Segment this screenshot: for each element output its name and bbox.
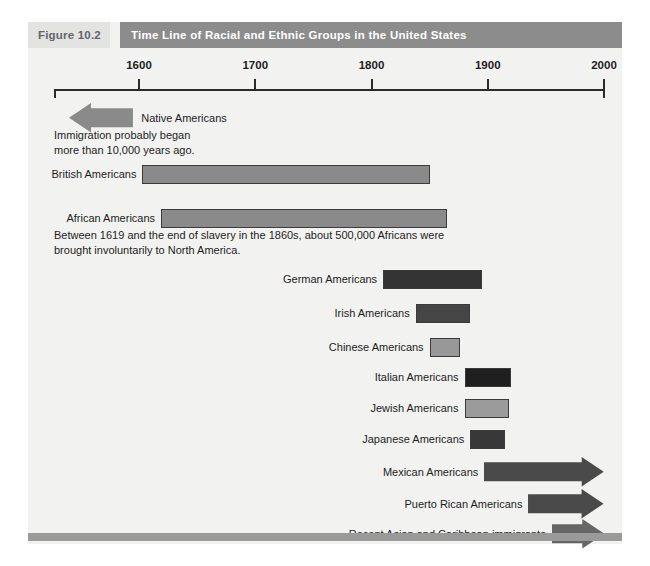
timeline-label-japanese-americans: Japanese Americans [362,433,464,445]
timeline-label-british-americans: British Americans [52,168,137,180]
timeline-label-native-americans: Native Americans [141,112,227,124]
axis-tick-label-1800: 1800 [359,59,385,71]
timeline-label-italian-americans: Italian Americans [375,371,459,383]
timeline-arrow-mexican-americans [484,457,604,486]
axis-tick-label-2000: 2000 [591,59,617,71]
figure-title: Time Line of Racial and Ethnic Groups in… [120,22,622,48]
timeline-arrow-puerto-rican-americans [528,489,604,518]
figure-root: Figure 10.2 Time Line of Racial and Ethn… [0,0,650,566]
figure-panel: Figure 10.2 Time Line of Racial and Ethn… [28,22,622,544]
axis-tick-label-1900: 1900 [475,59,501,71]
figure-header: Figure 10.2 Time Line of Racial and Ethn… [28,22,622,48]
timeline-bar-jewish-americans [465,399,509,418]
timeline-label-irish-americans: Irish Americans [334,307,409,319]
axis-tick-1700 [254,79,256,90]
figure-number: Figure 10.2 [28,22,110,48]
timeline-label-jewish-americans: Jewish Americans [370,402,458,414]
timeline-axis [54,89,605,91]
timeline-label-german-americans: German Americans [283,273,377,285]
timeline-bar-british-americans [142,165,429,184]
axis-tick-1800 [371,79,373,90]
timeline-bar-chinese-americans [430,338,460,357]
figure-footer-bar [28,533,622,541]
axis-tick-1600 [138,79,140,90]
timeline-label-chinese-americans: Chinese Americans [329,341,424,353]
timeline-label-mexican-americans: Mexican Americans [383,466,478,478]
timeline-note-native-americans: Immigration probably began more than 10,… [54,128,195,157]
timeline-bar-german-americans [383,270,482,289]
timeline-label-african-americans: African Americans [66,212,155,224]
timeline-bar-african-americans [161,209,447,228]
axis-tick-label-1600: 1600 [126,59,152,71]
axis-endcap-left [54,89,56,98]
timeline-bar-italian-americans [465,368,512,387]
timeline-label-puerto-rican-americans: Puerto Rican Americans [404,498,522,510]
axis-endcap-right [603,89,605,98]
axis-tick-1900 [487,79,489,90]
axis-tick-label-1700: 1700 [242,59,268,71]
timeline-bar-japanese-americans [470,430,505,449]
timeline-bar-irish-americans [416,304,471,323]
timeline-note-african-americans: Between 1619 and the end of slavery in t… [54,228,444,257]
